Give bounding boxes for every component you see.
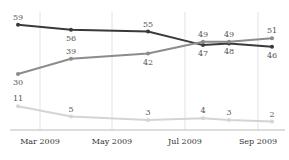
data-point (146, 30, 150, 34)
data-label: 4 (200, 106, 205, 115)
x-tick-label: Jul 2009 (167, 137, 202, 146)
data-label: 42 (143, 58, 153, 67)
data-point (146, 118, 150, 122)
data-point (201, 40, 205, 44)
data-label: 49 (224, 30, 234, 39)
data-point (201, 116, 205, 120)
data-point (227, 118, 231, 122)
data-label: 56 (66, 34, 76, 43)
data-label: 59 (13, 13, 23, 22)
data-label: 39 (66, 47, 76, 56)
x-axis-ticks: Mar 2009May 2009Jul 2009Sep 2009 (20, 137, 277, 146)
data-point (16, 104, 20, 108)
data-point (227, 40, 231, 44)
x-tick-label: Mar 2009 (20, 137, 60, 146)
line-chart: 5956554748463039424949511153432 Mar 2009… (0, 0, 289, 160)
data-label: 55 (143, 20, 153, 29)
data-point (69, 57, 73, 61)
data-label: 48 (224, 47, 234, 56)
data-point (270, 120, 274, 124)
data-label: 46 (267, 51, 277, 60)
data-point (146, 52, 150, 56)
data-label: 30 (13, 78, 23, 87)
data-label: 47 (198, 49, 208, 58)
data-point (16, 72, 20, 76)
data-label: 3 (226, 108, 231, 117)
x-tick-label: May 2009 (92, 137, 132, 146)
data-point (270, 45, 274, 49)
data-point (270, 36, 274, 40)
data-label: 2 (269, 110, 274, 119)
x-tick-label: Sep 2009 (239, 137, 277, 146)
data-label: 11 (13, 94, 23, 103)
data-point (69, 115, 73, 119)
data-label: 51 (267, 26, 277, 35)
data-point (69, 28, 73, 32)
data-label: 49 (198, 30, 208, 39)
data-label: 3 (145, 108, 150, 117)
data-point (16, 23, 20, 27)
data-label: 5 (68, 105, 73, 114)
